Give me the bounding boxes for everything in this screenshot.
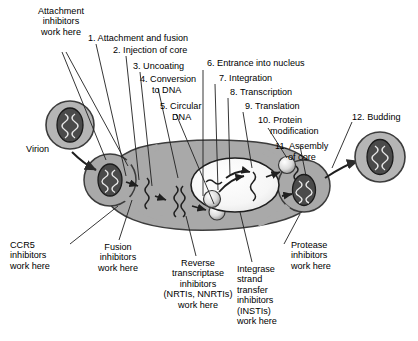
label-protease-inhibitors: Protease inhibitors work here xyxy=(291,240,331,271)
label-step-11-cont: of core xyxy=(288,152,316,162)
label-step-8: 8. Transcription xyxy=(230,87,292,97)
released-virion xyxy=(355,132,405,182)
label-fusion-inhibitors: Fusion inhibitors work here xyxy=(80,242,156,273)
label-step-5: 5. Circular xyxy=(160,101,201,111)
label-step-5-cont: DNA xyxy=(172,112,191,122)
free-virion xyxy=(46,101,94,149)
label-ccr5-inhibitors: CCR5 inhibitors work here xyxy=(10,240,50,271)
budding-arrow xyxy=(325,161,358,178)
label-step-3: 3. Uncoating xyxy=(133,61,184,71)
cell-nucleus xyxy=(191,158,280,212)
label-integrase-inhibitors: Integrase strand transfer inhibitors (IN… xyxy=(237,264,277,326)
injected-core xyxy=(98,164,122,196)
label-step-6: 6. Entrance into nucleus xyxy=(207,58,305,68)
label-step-10: 10. Protein xyxy=(258,115,302,125)
label-step-9: 9. Translation xyxy=(245,101,300,111)
label-step-2: 2. Injection of core xyxy=(113,45,187,55)
label-step-4: 4. Conversion xyxy=(140,74,196,84)
label-step-1: 1. Attachment and fusion xyxy=(88,33,188,43)
label-step-4-cont: to DNA xyxy=(152,85,181,95)
label-reverse-transcriptase-inhibitors: Reverse transcriptase inhibitors (NRTIs,… xyxy=(146,258,250,310)
label-step-10-cont: modification xyxy=(270,126,319,136)
label-step-11: 11. Assembly xyxy=(275,141,328,151)
label-step-7: 7. Integration xyxy=(219,73,272,83)
label-virion: Virion xyxy=(26,144,49,154)
hiv-life-cycle-figure: Attachment inhibitors work here 1. Attac… xyxy=(0,0,418,341)
label-step-12: 12. Budding xyxy=(352,112,401,122)
